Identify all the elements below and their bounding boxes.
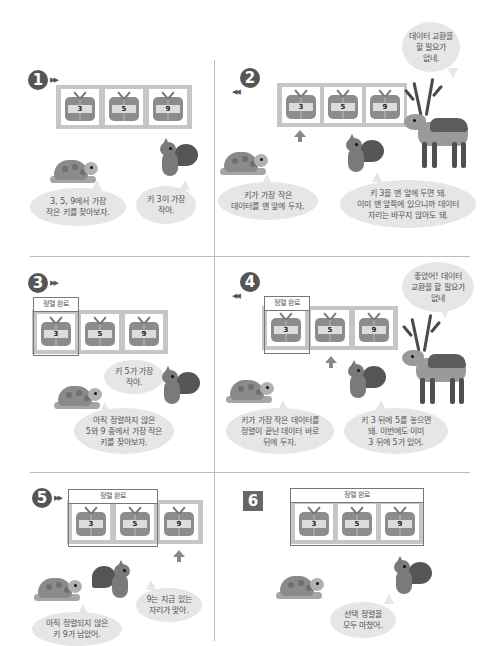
right-arrows-icon: ▶▶ xyxy=(54,494,61,502)
array-cell: 3 xyxy=(61,89,99,125)
gift-box-icon: 9 xyxy=(153,97,183,121)
bow-icon xyxy=(292,89,310,97)
sorted-label: 정렬 완료 xyxy=(33,297,79,312)
bow-icon xyxy=(159,91,177,99)
turtle-icon xyxy=(34,576,84,604)
gift-box-icon: 9 xyxy=(129,322,159,346)
left-arrows-icon: ◀◀ xyxy=(232,88,239,96)
bubble-tail xyxy=(384,594,394,604)
array-track: 3 5 9 xyxy=(277,83,407,127)
array-cell: 3 xyxy=(282,87,320,123)
key-label: 9 xyxy=(373,103,397,111)
array-cell: 5 xyxy=(81,314,119,350)
sorted-label: 정렬 완료 xyxy=(68,489,158,504)
key-label: 5 xyxy=(88,330,112,338)
bow-icon xyxy=(135,316,153,324)
deer-icon xyxy=(402,314,472,409)
step-badge: 1 xyxy=(28,70,48,90)
bubble-tail xyxy=(372,172,382,182)
squirrel-speech-bubble: 9는 지금 있는 자리가 맞아. xyxy=(136,588,202,622)
bow-icon xyxy=(321,312,339,320)
array-cell: 9 xyxy=(149,89,187,125)
pointer-up-arrow-icon xyxy=(173,550,185,557)
key-label: 5 xyxy=(112,105,136,113)
turtle-icon xyxy=(54,384,104,412)
gift-box-icon: 3 xyxy=(65,97,95,121)
array-cell: 5 xyxy=(311,310,349,346)
sorted-label: 정렬 완료 xyxy=(264,296,310,311)
squirrel-icon xyxy=(346,362,386,402)
gift-box-icon: 9 xyxy=(370,95,400,119)
step-badge: 2 xyxy=(240,68,260,88)
bow-icon xyxy=(115,91,133,99)
gift-box-icon: 5 xyxy=(315,318,345,342)
key-label: 9 xyxy=(156,105,180,113)
step-badge: 5 xyxy=(32,488,52,508)
sorted-label: 정렬 완료 xyxy=(290,488,424,503)
turtle-icon xyxy=(226,378,276,406)
left-arrows-icon: ◀◀ xyxy=(232,292,239,300)
array-cell: 9 xyxy=(160,504,198,540)
bow-icon xyxy=(71,91,89,99)
row-divider-1 xyxy=(30,256,470,257)
step-badge: 3 xyxy=(28,273,48,293)
vertical-divider xyxy=(214,60,215,641)
bow-icon xyxy=(365,312,383,320)
key-label: 5 xyxy=(331,103,355,111)
turtle-speech-bubble: 아직 정렬하지 않은 5와 9 중에서 가장 작은 키를 찾아보자. xyxy=(74,408,174,454)
bow-icon xyxy=(376,89,394,97)
turtle-speech-bubble: 3, 5, 9에서 가장 작은 키를 찾아보자. xyxy=(30,188,126,226)
array-track: 3 5 9 xyxy=(56,85,192,129)
bubble-tail xyxy=(448,68,458,78)
gift-box-icon: 9 xyxy=(359,318,389,342)
squirrel-speech-bubble: 선택 정렬을 모두 마쳤어. xyxy=(330,602,396,638)
turtle-speech-bubble: 키가 가장 작은 데이터를 정렬이 끝난 데이터 바로 뒤에 두자. xyxy=(226,408,334,454)
squirrel-speech-bubble: 키 3 뒤에 5를 놓으면 돼. 이번에도 이미 3 뒤에 5가 있어. xyxy=(344,408,448,454)
bubble-tail xyxy=(440,308,450,318)
step-badge: 4 xyxy=(240,272,260,292)
array-cell: 9 xyxy=(125,314,163,350)
gift-box-icon: 3 xyxy=(286,95,316,119)
step-badge: 6 xyxy=(243,491,263,511)
row-divider-2 xyxy=(30,472,470,473)
array-cell: 9 xyxy=(355,310,393,346)
squirrel-icon xyxy=(160,368,200,408)
squirrel-icon xyxy=(392,558,432,598)
squirrel-icon xyxy=(344,136,384,176)
squirrel-speech-bubble: 키 3이 가장 작아. xyxy=(136,186,196,224)
key-label: 9 xyxy=(362,326,386,334)
gift-box-icon: 9 xyxy=(164,512,194,536)
gift-box-icon: 5 xyxy=(85,322,115,346)
squirrel-speech-bubble: 키 5가 가장 작아. xyxy=(104,360,164,394)
array-cell: 5 xyxy=(105,89,143,125)
key-label: 5 xyxy=(318,326,342,334)
array-cell: 5 xyxy=(324,87,362,123)
right-arrows-icon: ▶▶ xyxy=(50,76,57,84)
deer-icon xyxy=(404,78,474,173)
squirrel-icon xyxy=(158,140,198,180)
squirrel-speech-bubble: 키 3을 맨 앞에 두면 돼. 이미 맨 앞쪽에 있으니까 데이터 자리는 바꾸… xyxy=(340,180,476,228)
pointer-up-arrow-icon xyxy=(294,130,306,137)
bow-icon xyxy=(334,89,352,97)
deer-speech-bubble: 좋았어! 데이터 교환을 할 필요가 없네 xyxy=(402,262,474,312)
array-cell: 9 xyxy=(366,87,404,123)
deer-speech-bubble: 데이터 교환을 할 필요가 없네. xyxy=(402,22,460,72)
right-arrows-icon: ▶▶ xyxy=(50,279,57,287)
key-label: 9 xyxy=(167,520,191,528)
squirrel-icon xyxy=(92,562,132,602)
key-label: 3 xyxy=(68,105,92,113)
gift-box-icon: 5 xyxy=(109,97,139,121)
gift-box-icon: 5 xyxy=(328,95,358,119)
turtle-speech-bubble: 키가 가장 작은 데이터를 맨 앞에 두자. xyxy=(218,182,318,220)
bow-icon xyxy=(91,316,109,324)
turtle-speech-bubble: 아직 정렬되지 않은 키 9가 남았어. xyxy=(32,612,122,646)
turtle-icon xyxy=(276,574,326,602)
bow-icon xyxy=(170,506,188,514)
pointer-up-arrow-icon xyxy=(325,356,337,363)
key-label: 3 xyxy=(289,103,313,111)
key-label: 9 xyxy=(132,330,156,338)
